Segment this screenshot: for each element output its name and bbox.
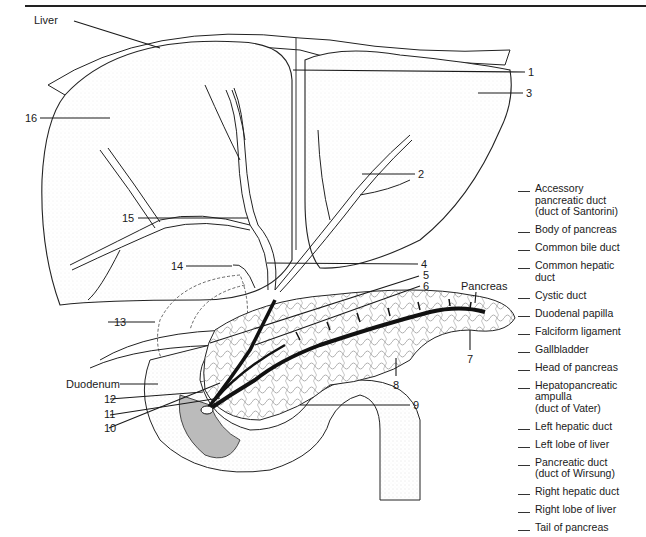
legend-item: Left hepatic duct [518, 421, 646, 433]
label-liver: Liver [34, 14, 58, 26]
label-8: 8 [393, 379, 399, 391]
legend-text: Head of pancreas [535, 362, 618, 374]
legend-item: Common hepatic duct [518, 260, 646, 283]
legend-blank-line [518, 250, 530, 251]
legend-blank-line [518, 465, 530, 466]
legend-blank-line [518, 334, 530, 335]
legend-blank-line [518, 232, 530, 233]
label-3: 3 [526, 87, 532, 99]
legend-blank-line [518, 298, 530, 299]
label-16: 16 [25, 112, 37, 124]
legend-text: Hepatopancreatic ampulla (duct of Vater) [535, 380, 617, 415]
legend-text: Body of pancreas [535, 224, 617, 236]
label-duodenum: Duodenum [66, 378, 120, 390]
label-11: 11 [104, 408, 115, 420]
label-6: 6 [423, 280, 429, 292]
legend-blank-line [518, 316, 530, 317]
legend-text: Right lobe of liver [535, 504, 616, 516]
label-7: 7 [467, 353, 473, 365]
legend-text: Duodenal papilla [535, 308, 613, 320]
legend-text: Left lobe of liver [535, 439, 609, 451]
legend-item: Accessory pancreatic duct (duct of Santo… [518, 183, 646, 218]
label-12: 12 [104, 393, 116, 405]
legend-blank-line [518, 370, 530, 371]
legend-text: Cystic duct [535, 290, 586, 302]
legend-text: Accessory pancreatic duct (duct of Santo… [535, 183, 618, 218]
legend-item: Falciform ligament [518, 326, 646, 338]
label-2: 2 [418, 168, 424, 180]
legend-text: Pancreatic duct (duct of Wirsung) [535, 457, 615, 480]
legend-item: Gallbladder [518, 344, 646, 356]
label-14: 14 [171, 260, 183, 272]
label-9: 9 [413, 399, 419, 411]
legend-item: Duodenal papilla [518, 308, 646, 320]
legend-list: Accessory pancreatic duct (duct of Santo… [518, 183, 646, 537]
label-pancreas: Pancreas [461, 280, 507, 292]
legend-text: Common bile duct [535, 242, 620, 254]
legend-item: Body of pancreas [518, 224, 646, 236]
legend-blank-line [518, 191, 530, 192]
legend-item: Head of pancreas [518, 362, 646, 374]
label-15: 15 [122, 212, 134, 224]
legend-item: Left lobe of liver [518, 439, 646, 451]
label-13: 13 [114, 316, 126, 328]
left-lobe-liver-shape [305, 51, 511, 268]
legend-text: Gallbladder [535, 344, 589, 356]
label-10: 10 [104, 422, 116, 434]
legend-blank-line [518, 388, 530, 389]
legend-item: Cystic duct [518, 290, 646, 302]
duodenal-papilla-shape [201, 406, 213, 414]
right-lobe-liver-shape [42, 41, 292, 305]
legend-item: Common bile duct [518, 242, 646, 254]
legend-blank-line [518, 447, 530, 448]
legend-blank-line [518, 512, 530, 513]
legend-item: Tail of pancreas [518, 522, 646, 534]
legend-blank-line [518, 530, 530, 531]
legend-item: Pancreatic duct (duct of Wirsung) [518, 457, 646, 480]
legend-blank-line [518, 268, 530, 269]
legend-blank-line [518, 429, 530, 430]
legend-blank-line [518, 494, 530, 495]
legend-blank-line [518, 352, 530, 353]
legend-item: Right lobe of liver [518, 504, 646, 516]
legend-text: Tail of pancreas [535, 522, 609, 534]
legend-item: Right hepatic duct [518, 486, 646, 498]
legend-text: Falciform ligament [535, 326, 621, 338]
legend-text: Right hepatic duct [535, 486, 619, 498]
legend-text: Common hepatic duct [535, 260, 614, 283]
legend-text: Left hepatic duct [535, 421, 612, 433]
label-1: 1 [528, 66, 534, 78]
legend-item: Hepatopancreatic ampulla (duct of Vater) [518, 380, 646, 415]
